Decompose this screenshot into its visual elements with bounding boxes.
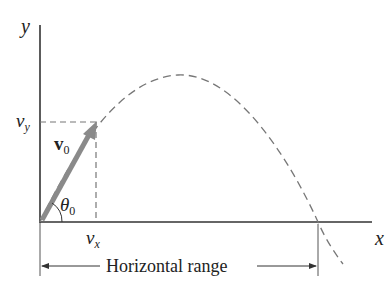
- x-axis-label: x: [375, 228, 384, 248]
- v0-label: v0: [54, 134, 70, 153]
- range-label: Horizontal range: [106, 257, 227, 275]
- vx-label: vx: [86, 228, 100, 247]
- y-axis-label: y: [21, 16, 30, 36]
- vy-label: vy: [16, 111, 30, 130]
- theta0-label: θ0: [60, 195, 75, 214]
